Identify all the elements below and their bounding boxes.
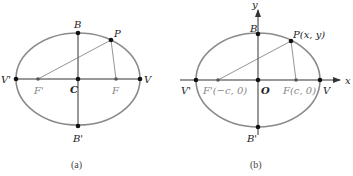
vertex-v-prime-point [14,77,19,82]
panel-a: B B' P V V' C F F' (a) [1,19,153,171]
focus-f-prime-point-b [216,78,220,82]
focal-radius-left-a [38,40,111,79]
covertex-b-prime-point-b [256,125,261,130]
label-b: B [73,19,81,30]
label-v: V [144,74,153,85]
caption-b: (b) [250,159,262,171]
origin-o-point [256,78,261,83]
label-b-prime-b: B' [246,133,257,144]
label-y-axis: y [251,0,258,10]
label-v-b: V [323,85,332,96]
focal-radius-right-a [111,40,116,79]
point-p [109,38,114,43]
label-o: O [261,85,270,96]
label-b-b: B [249,23,257,34]
covertex-b-point [76,31,81,36]
center-c-point [76,77,81,82]
focus-f-point-b [294,78,298,82]
label-v-prime: V' [1,74,11,85]
label-c: C [70,84,78,95]
caption-a: (a) [71,159,82,171]
vertex-v-point-b [318,78,323,83]
label-p-b: P(x, y) [292,29,325,40]
label-v-prime-b: V' [181,85,191,96]
label-x-axis: x [345,75,351,86]
focal-radius-right-b [291,41,296,80]
covertex-b-prime-point [76,124,81,129]
label-b-prime: B' [72,133,83,144]
panel-b: y x B B' P(x, y) V V' O F(c, 0) F'(−c, 0… [180,0,351,171]
label-f-prime: F' [33,85,44,96]
vertex-v-point [138,77,143,82]
label-p: P [113,28,121,39]
focus-f-prime-point [36,77,40,81]
focus-f-point [114,77,118,81]
vertex-v-prime-point-b [194,78,199,83]
label-f-prime-b: F'(−c, 0) [202,85,247,96]
label-f: F [111,85,120,96]
ellipse-diagram: B B' P V V' C F F' (a) y x B B' P(x, y) … [0,0,353,176]
focal-radius-left-b [218,41,291,80]
label-f-b: F(c, 0) [282,85,316,96]
